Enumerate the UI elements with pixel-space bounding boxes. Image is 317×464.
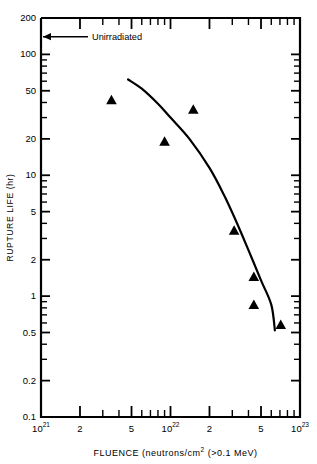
data-point-marker — [159, 136, 170, 145]
y-tick-label-0: 200 — [20, 12, 36, 23]
y-axis-title: RUPTURE LIFE (hr) — [5, 173, 15, 261]
plot-frame — [41, 18, 300, 417]
rupture-life-vs-fluence-chart: 2001005020105210.50.20.11021251022251023… — [0, 0, 317, 464]
data-point-marker — [106, 95, 117, 104]
data-point-marker — [188, 104, 199, 113]
unirradiated-arrow-head — [43, 33, 51, 40]
y-tick-label-9: 20 — [25, 133, 36, 144]
figure-container: 2001005020105210.50.20.11021251022251023… — [0, 0, 317, 464]
x-tick-label-4: 5 — [129, 423, 134, 434]
x-tick-label-1: 2 — [77, 423, 82, 434]
y-tick-label-19: 1 — [31, 290, 36, 301]
x-tick-label-0: 1021 — [32, 421, 50, 434]
y-tick-label-15: 5 — [31, 206, 36, 217]
y-tick-label-18: 2 — [31, 254, 36, 265]
x-tick-label-9: 1022 — [162, 421, 180, 434]
y-tick-label-6: 50 — [25, 85, 36, 96]
fitted-curve — [128, 79, 275, 330]
y-tick-label-24: 0.5 — [23, 327, 36, 338]
x-tick-label-13: 5 — [258, 423, 263, 434]
data-point-marker — [275, 320, 286, 329]
unirradiated-label: Unirradiated — [92, 32, 142, 42]
x-tick-label-10: 2 — [207, 423, 212, 434]
y-tick-label-28: 0.1 — [23, 411, 36, 422]
y-tick-label-27: 0.2 — [23, 375, 36, 386]
x-tick-label-18: 1023 — [291, 421, 309, 434]
y-tick-label-10: 10 — [25, 169, 36, 180]
x-axis-title: FLUENCE (neutrons/cm2 (>0.1 MeV) — [94, 446, 258, 458]
data-point-marker — [249, 299, 260, 308]
y-tick-label-1: 100 — [20, 48, 36, 59]
